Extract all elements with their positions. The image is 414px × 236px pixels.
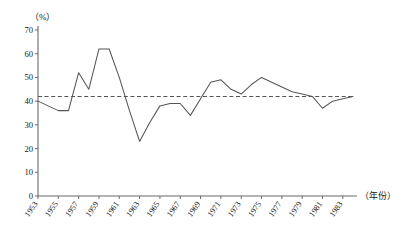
y-axis-ticks: 010203040506070 — [24, 25, 38, 201]
x-tick-label: 1969 — [185, 200, 202, 219]
x-tick-label: 1975 — [246, 200, 263, 219]
x-tick-label: 1977 — [267, 200, 284, 219]
x-tick-label: 1959 — [84, 200, 101, 219]
x-tick-label: 1983 — [328, 200, 345, 219]
x-tick-label: 1965 — [145, 200, 162, 219]
x-tick-label: 1971 — [206, 200, 223, 219]
data-series-line — [38, 49, 353, 141]
y-tick-label: 0 — [29, 191, 33, 201]
y-tick-label: 30 — [24, 120, 33, 130]
y-tick-label: 70 — [24, 25, 33, 35]
y-tick-label: 40 — [24, 96, 33, 106]
y-axis-unit-group: （%） — [30, 12, 56, 22]
y-tick-label: 50 — [24, 72, 33, 82]
x-axis-ticks: 1953195519571959196119631965196719691971… — [23, 196, 345, 219]
x-tick-label: 1979 — [287, 200, 304, 219]
line-chart: （%） （年份） 010203040506070 195319551957195… — [0, 0, 414, 236]
y-tick-label: 60 — [24, 49, 33, 59]
y-tick-label: 20 — [24, 144, 33, 154]
x-tick-label: 1953 — [23, 200, 40, 219]
x-tick-label: 1963 — [124, 200, 141, 219]
y-tick-label: 10 — [24, 167, 33, 177]
x-tick-label: 1973 — [226, 200, 243, 219]
x-tick-label: 1957 — [64, 200, 81, 219]
x-axis-unit-label: （年份） — [360, 190, 396, 201]
y-axis-unit-label: （%） — [30, 12, 56, 22]
x-axis-unit-group: （年份） — [360, 190, 396, 201]
x-tick-label: 1981 — [307, 200, 324, 219]
x-tick-label: 1955 — [43, 200, 60, 219]
x-tick-label: 1967 — [165, 200, 182, 219]
chart-canvas: （%） （年份） 010203040506070 195319551957195… — [0, 0, 414, 236]
x-tick-label: 1961 — [104, 200, 121, 219]
